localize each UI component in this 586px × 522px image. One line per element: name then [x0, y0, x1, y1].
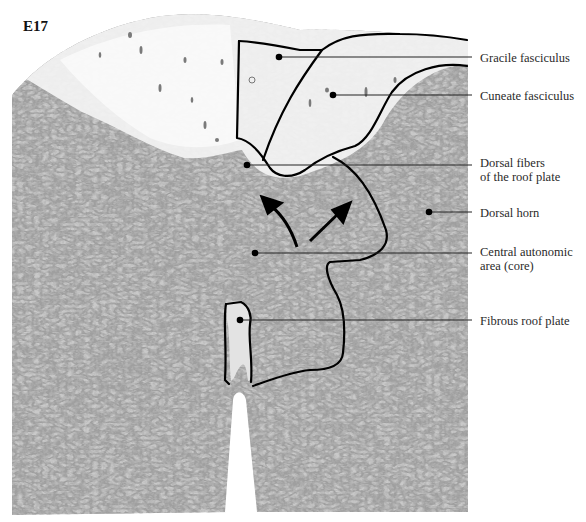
label-fibrous-roof-plate: Fibrous roof plate: [480, 314, 570, 328]
label-gracile-fasciculus: Gracile fasciculus: [480, 51, 570, 65]
embryonic-stage-label: E17: [23, 18, 48, 35]
label-central-autonomic-area: Central autonomic area (core): [480, 245, 573, 273]
label-cuneate-fasciculus: Cuneate fasciculus: [480, 89, 574, 103]
label-dorsal-fibers-roof-plate: Dorsal fibers of the roof plate: [480, 156, 560, 184]
label-dorsal-horn: Dorsal horn: [480, 206, 539, 220]
